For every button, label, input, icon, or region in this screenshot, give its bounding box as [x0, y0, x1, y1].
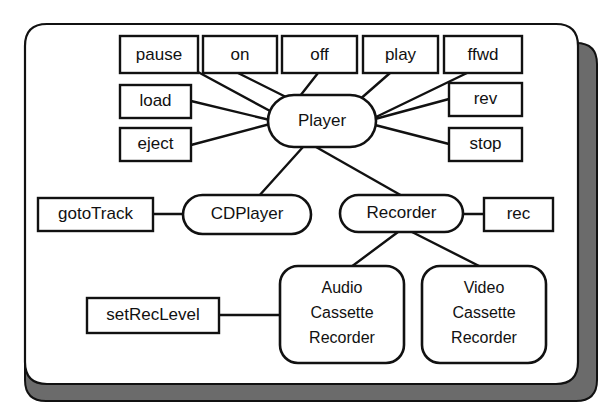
operation-gototrack-label: gotoTrack	[58, 204, 133, 223]
operation-setreclevel[interactable]: setRecLevel	[87, 298, 219, 333]
class-player[interactable]: Player	[268, 95, 376, 147]
class-video-cassette-recorder-line1: Video	[464, 279, 505, 296]
operation-play-label: play	[385, 45, 417, 64]
operation-rec[interactable]: rec	[484, 198, 553, 231]
operation-stop-label: stop	[469, 134, 501, 153]
class-audio-cassette-recorder[interactable]: Audio Cassette Recorder	[280, 266, 404, 363]
operation-load[interactable]: load	[120, 85, 191, 118]
class-video-cassette-recorder-line2: Cassette	[452, 304, 515, 321]
operation-rev[interactable]: rev	[449, 83, 522, 116]
operation-on-label: on	[231, 45, 250, 64]
operation-on[interactable]: on	[203, 36, 277, 73]
operation-pause[interactable]: pause	[120, 36, 198, 73]
operation-off-label: off	[310, 45, 329, 64]
operation-eject-label: eject	[138, 134, 174, 153]
class-cdplayer-label: CDPlayer	[211, 204, 284, 223]
operation-eject[interactable]: eject	[120, 128, 191, 161]
operation-rev-label: rev	[474, 89, 498, 108]
class-audio-cassette-recorder-line3: Recorder	[309, 329, 375, 346]
operation-stop[interactable]: stop	[449, 128, 522, 161]
operation-load-label: load	[139, 91, 171, 110]
class-recorder[interactable]: Recorder	[340, 195, 463, 232]
operation-play[interactable]: play	[363, 36, 438, 73]
operation-pause-label: pause	[136, 45, 182, 64]
operation-gototrack[interactable]: gotoTrack	[38, 198, 153, 231]
diagram-canvas: pause on off play ffwd load	[0, 0, 609, 419]
class-video-cassette-recorder-line3: Recorder	[451, 329, 517, 346]
class-audio-cassette-recorder-line2: Cassette	[310, 304, 373, 321]
class-video-cassette-recorder[interactable]: Video Cassette Recorder	[422, 266, 546, 363]
operation-off[interactable]: off	[282, 36, 357, 73]
class-player-label: Player	[298, 111, 347, 130]
operation-ffwd[interactable]: ffwd	[444, 36, 522, 73]
player-hierarchy-diagram: pause on off play ffwd load	[0, 0, 609, 419]
class-recorder-label: Recorder	[367, 203, 437, 222]
class-audio-cassette-recorder-line1: Audio	[322, 279, 363, 296]
operation-setreclevel-label: setRecLevel	[106, 305, 200, 324]
operation-ffwd-label: ffwd	[468, 45, 499, 64]
operation-rec-label: rec	[507, 204, 531, 223]
class-cdplayer[interactable]: CDPlayer	[183, 195, 311, 234]
